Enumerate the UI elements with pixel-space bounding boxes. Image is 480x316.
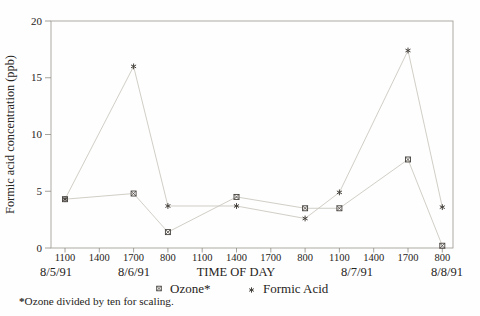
x-tick-label: 800 [160, 252, 176, 263]
y-tick-label: 0 [37, 242, 43, 254]
y-axis-title: Formic acid concentration (ppb) [3, 55, 17, 214]
footnote-text: Ozone divided by ten for scaling. [25, 295, 174, 307]
legend-label-formic-acid: Formic Acid [263, 281, 329, 296]
y-tick-label: 5 [37, 185, 43, 197]
x-tick-label: 800 [434, 252, 450, 263]
date-label: 8/7/91 [341, 265, 373, 279]
plot-frame [51, 21, 453, 248]
x-tick-label: 1700 [123, 252, 144, 263]
legend-label-ozone: Ozone* [170, 281, 210, 296]
x-tick-label: 1400 [89, 252, 110, 263]
x-tick-label: 1400 [363, 252, 384, 263]
y-tick-label: 10 [31, 128, 43, 140]
chart-figure: 0510152011001400170080011001400170080011… [0, 0, 480, 316]
series-line-ozone [65, 159, 442, 245]
series-line-formic-acid [65, 51, 442, 219]
formic-acid-ozone-chart: 0510152011001400170080011001400170080011… [0, 0, 480, 316]
date-label: 8/5/91 [40, 265, 72, 279]
y-tick-label: 20 [31, 15, 43, 27]
x-tick-label: 1400 [226, 252, 247, 263]
x-tick-label: 1100 [329, 252, 350, 263]
x-tick-label: 1100 [55, 252, 76, 263]
y-tick-label: 15 [31, 71, 43, 83]
date-label: 8/6/91 [118, 265, 150, 279]
x-tick-label: 1700 [398, 252, 419, 263]
footnote: *Ozone divided by ten for scaling. [19, 295, 174, 307]
x-tick-label: 800 [297, 252, 313, 263]
x-tick-label: 1100 [192, 252, 213, 263]
x-tick-label: 1700 [260, 252, 281, 263]
x-axis-title: TIME OF DAY [197, 265, 276, 279]
date-label: 8/8/91 [431, 265, 463, 279]
